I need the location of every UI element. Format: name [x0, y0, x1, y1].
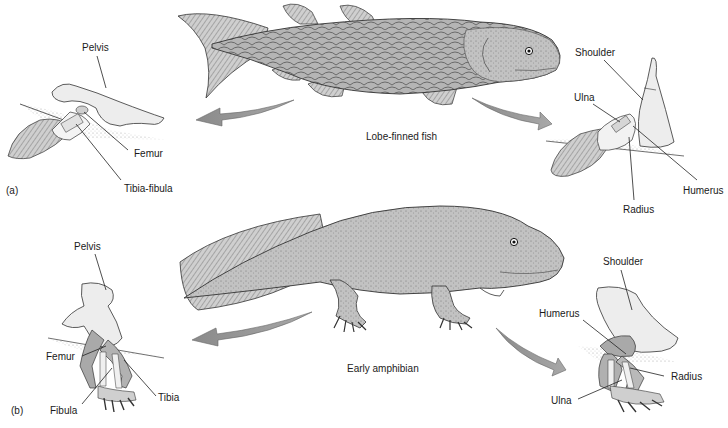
panel-tag-b: (b)	[11, 406, 23, 416]
label-tibia-fibula-a: Tibia-fibula	[124, 184, 173, 194]
amphibian-forelimb-skeleton	[578, 270, 678, 412]
label-fibula-b: Fibula	[50, 406, 77, 416]
arrow-to-hindlimb-b	[192, 312, 312, 346]
lobe-finned-fish-illustration	[178, 4, 560, 105]
label-humerus-b: Humerus	[539, 309, 580, 319]
arrow-to-hindlimb-a	[196, 100, 294, 126]
label-femur-b: Femur	[46, 352, 75, 362]
label-shoulder-b: Shoulder	[603, 257, 643, 267]
label-radius-a: Radius	[623, 205, 654, 215]
arrow-to-forelimb-a	[472, 98, 552, 130]
label-femur-a: Femur	[134, 149, 163, 159]
label-pelvis-b: Pelvis	[74, 242, 101, 252]
label-pelvis-a: Pelvis	[82, 43, 109, 53]
caption-lobe-finned-fish: Lobe-finned fish	[366, 132, 437, 142]
panel-tag-a: (a)	[6, 186, 18, 196]
label-ulna-a: Ulna	[574, 93, 595, 103]
arrow-to-forelimb-b	[496, 328, 566, 376]
label-humerus-a: Humerus	[683, 186, 724, 196]
early-amphibian-illustration	[180, 206, 564, 332]
fish-forelimb-skeleton	[546, 58, 697, 200]
label-radius-b: Radius	[671, 372, 702, 382]
amphibian-hindlimb-skeleton	[48, 254, 164, 412]
caption-early-amphibian: Early amphibian	[347, 364, 419, 374]
fish-hindlimb-skeleton	[8, 56, 166, 180]
label-tibia-b: Tibia	[158, 393, 179, 403]
label-shoulder-a: Shoulder	[575, 48, 615, 58]
label-ulna-b: Ulna	[551, 396, 572, 406]
